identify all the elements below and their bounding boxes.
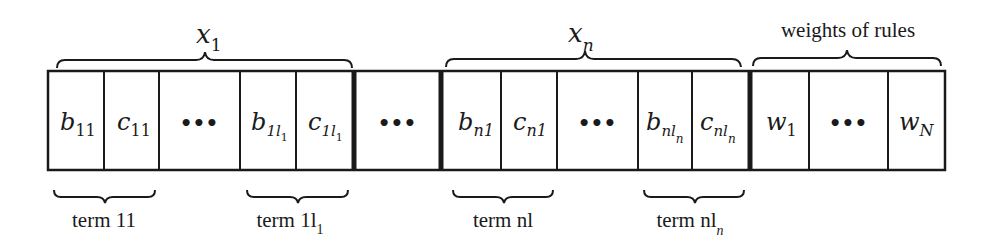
- top-brace-x1: [57, 52, 352, 68]
- bottom-brace-term1l1: [247, 190, 348, 203]
- cell-cnln: cnln: [700, 108, 736, 146]
- cell-bn1: bn1: [458, 108, 494, 140]
- top-brace-weights: [753, 50, 941, 66]
- cell-ellipsis-2: •••: [378, 111, 416, 135]
- top-label-xn: xn: [568, 18, 594, 55]
- bottom-label-term1l1: term 1l1: [256, 208, 323, 237]
- cell-c1l1: c1l1: [308, 108, 343, 144]
- cell-ellipsis-4: •••: [829, 111, 867, 135]
- top-label-x1: x1: [196, 19, 222, 55]
- bottom-label-termnln: term nln: [656, 208, 723, 238]
- cell-bnln: bnln: [646, 108, 684, 146]
- bottom-label-termn1: term nl: [473, 208, 533, 232]
- chromosome-diagram: x1 xn weights of rules b11 c11 ••• b1l1: [0, 0, 994, 249]
- top-label-weights: weights of rules: [781, 18, 915, 42]
- cell-wN: wN: [899, 108, 935, 140]
- cell-ellipsis-1: •••: [180, 111, 218, 135]
- bottom-label-term11: term 11: [72, 208, 136, 232]
- cell-b11: b11: [60, 108, 96, 140]
- bottom-brace-termnln: [644, 190, 744, 203]
- cell-c11: c11: [117, 108, 151, 140]
- bottom-brace-term11: [54, 190, 155, 203]
- bottom-braces: [54, 190, 744, 203]
- cell-ellipsis-3: •••: [578, 111, 616, 135]
- cell-b1l1: b1l1: [251, 108, 288, 144]
- bottom-brace-termn1: [453, 190, 553, 203]
- cell-cn1: cn1: [513, 108, 547, 140]
- cell-w1: w1: [766, 108, 797, 140]
